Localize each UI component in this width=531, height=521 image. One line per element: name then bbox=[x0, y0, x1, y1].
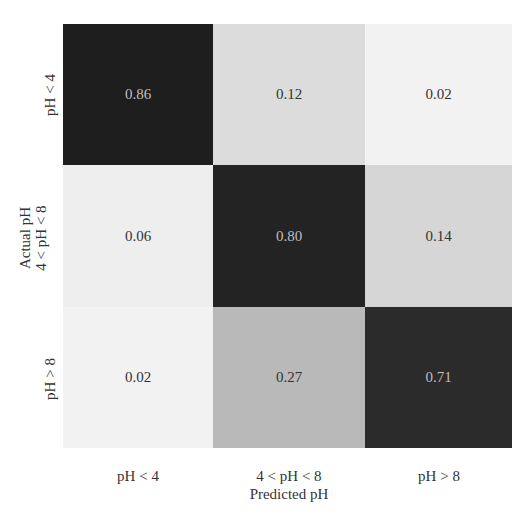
matrix-cell: 0.02 bbox=[63, 307, 213, 448]
x-tick-label-2: pH > 8 bbox=[389, 468, 489, 485]
cell-value: 0.12 bbox=[276, 86, 302, 103]
cell-value: 0.02 bbox=[425, 86, 451, 103]
matrix-cell: 0.12 bbox=[213, 24, 365, 165]
x-axis-title: Predicted pH bbox=[239, 486, 339, 503]
x-tick-label-1: 4 < pH < 8 bbox=[239, 468, 339, 485]
cell-value: 0.02 bbox=[125, 369, 151, 386]
y-axis-label-group: Actual pH 4 < pH < 8 bbox=[17, 183, 53, 293]
matrix-cell: 0.80 bbox=[213, 165, 365, 307]
cell-value: 0.27 bbox=[276, 369, 302, 386]
matrix-cell: 0.14 bbox=[365, 165, 512, 307]
cell-value: 0.71 bbox=[425, 369, 451, 386]
confusion-matrix: 0.860.120.020.060.800.140.020.270.71 bbox=[63, 24, 512, 448]
y-tick-label-2: pH > 8 bbox=[42, 339, 58, 419]
cell-value: 0.86 bbox=[125, 86, 151, 103]
y-axis-title: Actual pH bbox=[17, 183, 33, 293]
cell-value: 0.14 bbox=[425, 228, 451, 245]
x-tick-label-0: pH < 4 bbox=[88, 468, 188, 485]
matrix-cell: 0.71 bbox=[365, 307, 512, 448]
matrix-cell: 0.27 bbox=[213, 307, 365, 448]
matrix-cell: 0.06 bbox=[63, 165, 213, 307]
matrix-cell: 0.86 bbox=[63, 24, 213, 165]
cell-value: 0.06 bbox=[125, 228, 151, 245]
matrix-cell: 0.02 bbox=[365, 24, 512, 165]
y-tick-label-0: pH < 4 bbox=[42, 55, 58, 135]
y-tick-label-1: 4 < pH < 8 bbox=[33, 183, 49, 293]
cell-value: 0.80 bbox=[276, 228, 302, 245]
